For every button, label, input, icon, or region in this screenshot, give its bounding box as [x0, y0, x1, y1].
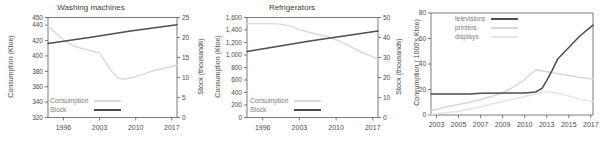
legend-label: televisions — [455, 15, 491, 22]
plot-area: 1996200320102017320340360380400420440450… — [0, 0, 210, 144]
y-tick-label-left: 320 — [32, 114, 43, 121]
legend-item: Stock — [250, 105, 321, 114]
legend-item: Stock — [50, 105, 121, 114]
y-tick-label-left: 360 — [32, 83, 43, 90]
legend-label: Consumption — [50, 97, 94, 104]
x-tick-label: 2003 — [292, 124, 308, 131]
y-tick-label-left: 340 — [32, 98, 43, 105]
legend-line-sample — [94, 100, 121, 102]
y-tick-label-left: 1,200 — [226, 39, 243, 46]
x-tick-label: 2003 — [92, 124, 108, 131]
legend-line-sample — [294, 100, 321, 102]
y-tick-label-right: 10 — [182, 74, 190, 81]
x-tick-label: 2009 — [495, 121, 511, 128]
y-tick-label-left: 420 — [32, 37, 43, 44]
y-tick-label-right: 20 — [383, 74, 391, 81]
y-tick-label-left: 1,400 — [226, 26, 243, 33]
y-tick-label-left: 380 — [32, 68, 43, 75]
x-tick-label: 2017 — [164, 124, 180, 131]
series-line-Stock — [247, 31, 378, 51]
legend-item: displays — [455, 32, 518, 41]
legend-item: Consumption — [50, 96, 121, 105]
y-tick-label-left: 200 — [231, 101, 242, 108]
y-tick-label-left: 450 — [32, 14, 43, 21]
y-tick-label-left: 40 — [419, 60, 427, 67]
y-tick-label-left: 0 — [422, 111, 426, 118]
series-line-Stock — [48, 25, 177, 44]
legend-label: printers — [455, 24, 491, 31]
y-tick-label-right: 5 — [182, 94, 186, 101]
y-tick-label-right: 30 — [383, 54, 391, 61]
y-tick-label-left: 440 — [32, 21, 43, 28]
legend-item: Consumption — [250, 96, 321, 105]
y-tick-label-left: 1,000 — [226, 51, 243, 58]
y-tick-label-right: 0 — [182, 114, 186, 121]
y-tick-label-left: 0 — [238, 114, 242, 121]
x-tick-label: 2010 — [128, 124, 144, 131]
charts-panel: Washing machines Consumption (Ktoe) Stoc… — [0, 0, 602, 144]
x-tick-label: 2010 — [517, 121, 533, 128]
chart-refrigerators: Refrigerators Consumption (Ktoe) Stock (… — [210, 0, 410, 144]
legend-item: televisions — [455, 14, 518, 23]
y-tick-label-left: 1,600 — [226, 14, 243, 21]
y-tick-label-left: 800 — [231, 64, 242, 71]
legend: televisions printers displays — [455, 14, 518, 41]
x-tick-label: 1996 — [56, 124, 72, 131]
y-tick-label-left: 400 — [231, 89, 242, 96]
x-tick-label: 2013 — [539, 121, 555, 128]
plot-area: 199620032010201702004006008001,0001,2001… — [210, 0, 410, 144]
x-tick-label: 2005 — [451, 121, 467, 128]
legend-line-sample — [294, 109, 321, 111]
y-tick-label-right: 50 — [383, 14, 391, 21]
y-tick-label-right: 10 — [383, 94, 391, 101]
y-tick-label-right: 25 — [182, 14, 190, 21]
y-tick-label-right: 40 — [383, 34, 391, 41]
x-tick-label: 2017 — [583, 121, 599, 128]
legend-line-sample — [491, 36, 518, 38]
legend-line-sample — [491, 18, 518, 20]
y-tick-label-left: 600 — [231, 76, 242, 83]
chart-washing-machines: Washing machines Consumption (Ktoe) Stoc… — [0, 0, 210, 144]
legend-label: Stock — [50, 106, 94, 113]
legend-label: Stock — [250, 106, 294, 113]
x-tick-label: 2007 — [473, 121, 489, 128]
legend: Consumption Stock — [250, 96, 321, 114]
y-tick-label-right: 20 — [182, 34, 190, 41]
x-tick-label: 2003 — [429, 121, 445, 128]
y-tick-label-right: 15 — [182, 54, 190, 61]
series-line-printers — [431, 70, 593, 111]
x-tick-label: 2010 — [328, 124, 344, 131]
y-tick-label-left: 20 — [419, 86, 427, 93]
legend-label: Consumption — [250, 97, 294, 104]
x-tick-label: 2017 — [365, 124, 381, 131]
legend-item: printers — [455, 23, 518, 32]
x-tick-label: 1996 — [255, 124, 271, 131]
y-tick-label-right: 0 — [383, 114, 387, 121]
legend-line-sample — [491, 27, 518, 29]
x-tick-label: 2015 — [561, 121, 577, 128]
legend-line-sample — [94, 109, 121, 111]
legend-label: displays — [455, 33, 491, 40]
legend: Consumption Stock — [50, 96, 121, 114]
chart-electronics: Consumption ( 1000's Ktoe) 2003200520072… — [410, 0, 602, 144]
y-tick-label-left: 60 — [419, 35, 427, 42]
y-tick-label-left: 80 — [419, 9, 427, 16]
y-tick-label-left: 400 — [32, 52, 43, 59]
